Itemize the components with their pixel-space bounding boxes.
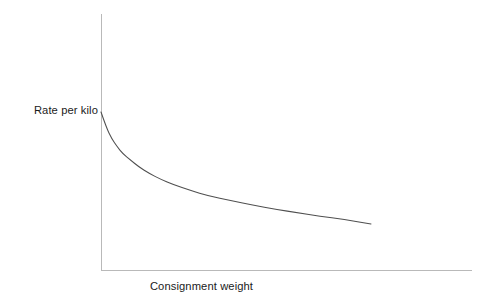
- y-axis-label: Rate per kilo: [34, 104, 98, 116]
- x-axis-label: Consignment weight: [0, 280, 487, 292]
- chart-figure: Rate per kilo Consignment weight: [0, 0, 487, 306]
- rate-per-kilo-curve: [101, 112, 371, 224]
- chart-plot-area: [0, 0, 487, 306]
